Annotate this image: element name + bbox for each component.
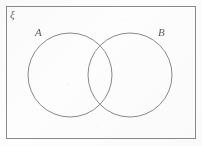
set-b-label: B: [158, 27, 165, 38]
venn-diagram-figure: [0, 0, 202, 146]
universal-set-label: ξ: [10, 9, 15, 20]
venn-diagram-canvas: ξ A B: [0, 0, 202, 146]
set-b-circle: [88, 33, 172, 117]
set-a-label: A: [35, 27, 42, 38]
